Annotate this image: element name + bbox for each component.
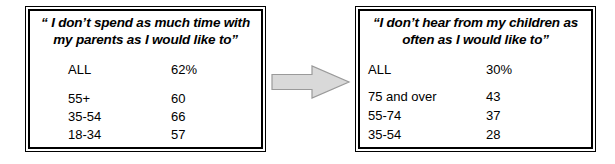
- panel-content-right: “I don’t hear from my children as often …: [356, 7, 595, 151]
- stat-label: 75 and over: [368, 89, 486, 105]
- panel-content-left: “ I don’t spend as much time with my par…: [26, 7, 265, 151]
- panel-heading-left: “ I don’t spend as much time with my par…: [36, 14, 255, 48]
- stat-label: 18-34: [68, 127, 171, 143]
- stat-row: 55-74 37: [368, 108, 585, 124]
- stat-label: 35-54: [368, 127, 486, 143]
- stat-label: ALL: [368, 62, 486, 78]
- stat-row: ALL 30%: [368, 62, 585, 78]
- stat-value: 37: [486, 108, 500, 124]
- stat-row: ALL 62%: [68, 62, 255, 78]
- stat-value: 43: [486, 89, 500, 105]
- stat-value: 57: [171, 127, 185, 143]
- stat-value: 60: [171, 91, 185, 107]
- stat-list-left: ALL 62% 55+ 60 35-54 66 18-34 57: [36, 62, 255, 143]
- stat-row: 18-34 57: [68, 127, 255, 143]
- stat-row: 35-54 66: [68, 109, 255, 125]
- statistic-panel-left: “ I don’t spend as much time with my par…: [25, 6, 266, 152]
- right-arrow-icon: [271, 62, 351, 102]
- stat-value: 62%: [171, 62, 197, 78]
- stat-label: ALL: [68, 62, 171, 78]
- stat-row: 35-54 28: [368, 127, 585, 143]
- stat-value: 66: [171, 109, 185, 125]
- panel-heading-right: “I don’t hear from my children as often …: [366, 14, 585, 48]
- stat-list-right: ALL 30% 75 and over 43 55-74 37 35-54 28: [366, 62, 585, 143]
- stat-row: 55+ 60: [68, 91, 255, 107]
- stat-label: 55+: [68, 91, 171, 107]
- stat-value: 30%: [486, 62, 512, 78]
- stat-row: 75 and over 43: [368, 89, 585, 105]
- stat-label: 55-74: [368, 108, 486, 124]
- stat-label: 35-54: [68, 109, 171, 125]
- stat-value: 28: [486, 127, 500, 143]
- statistic-panel-right: “I don’t hear from my children as often …: [355, 6, 596, 152]
